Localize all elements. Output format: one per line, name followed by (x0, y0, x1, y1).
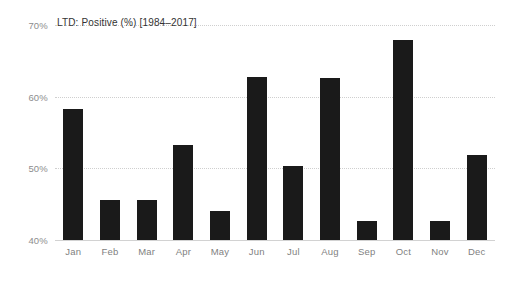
y-axis: 40%50%60%70% (10, 25, 48, 240)
y-axis-tick-label: 60% (14, 91, 48, 102)
bar-slot (422, 25, 459, 240)
bar-slot (312, 25, 349, 240)
bar-slot (202, 25, 239, 240)
bar-aug (320, 78, 340, 240)
x-axis-tick-label-may: May (211, 246, 230, 257)
x-axis-tick-label-nov: Nov (431, 246, 449, 257)
bar-may (210, 211, 230, 240)
bar-nov (430, 221, 450, 240)
x-axis-tick-label-mar: Mar (138, 246, 155, 257)
x-axis-tick-label-feb: Feb (102, 246, 119, 257)
bar-jan (63, 109, 83, 240)
x-axis-tick-label-dec: Dec (468, 246, 486, 257)
bar-oct (393, 40, 413, 240)
bar-slot (348, 25, 385, 240)
y-axis-tick-label: 50% (14, 163, 48, 174)
x-axis-tick-label-jul: Jul (287, 246, 300, 257)
bar-apr (173, 145, 193, 240)
bar-feb (100, 200, 120, 240)
bar-sep (357, 221, 377, 240)
bar-dec (467, 155, 487, 240)
bar-mar (137, 200, 157, 240)
bar-jul (283, 166, 303, 240)
x-axis-tick-label-oct: Oct (396, 246, 411, 257)
bar-jun (247, 77, 267, 240)
x-axis-tick-label-jan: Jan (65, 246, 81, 257)
y-axis-tick-label: 40% (14, 235, 48, 246)
bar-slot (238, 25, 275, 240)
x-axis-tick-label-jun: Jun (249, 246, 265, 257)
bar-slot (165, 25, 202, 240)
y-axis-tick-label: 70% (14, 20, 48, 31)
bar-slot (385, 25, 422, 240)
x-axis-tick-label-aug: Aug (321, 246, 339, 257)
bar-slot (458, 25, 495, 240)
bar-slot (275, 25, 312, 240)
x-axis-tick-label-sep: Sep (358, 246, 376, 257)
bar-chart: 40%50%60%70% LTD: Positive (%) [1984–201… (0, 0, 508, 283)
x-axis-tick-label-apr: Apr (176, 246, 191, 257)
bar-slot (92, 25, 129, 240)
bars-group (55, 25, 495, 240)
bar-slot (128, 25, 165, 240)
axis-baseline (55, 240, 495, 241)
bar-slot (55, 25, 92, 240)
x-axis: JanFebMarAprMayJunJulAugSepOctNovDec (55, 246, 495, 266)
